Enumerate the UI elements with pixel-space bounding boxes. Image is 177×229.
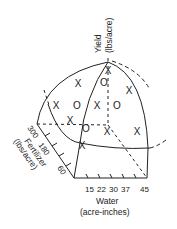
- o-marker: O: [100, 77, 108, 88]
- x-marker: X: [79, 140, 86, 151]
- fertilizer-tick: [52, 143, 57, 146]
- o-marker: O: [113, 100, 121, 111]
- x-marker: X: [67, 115, 74, 126]
- yield-axis-unit: (lbs/acre): [104, 17, 114, 53]
- water-tick-15: 15: [85, 185, 94, 194]
- water-tick-45: 45: [140, 185, 149, 194]
- x-marker: X: [134, 126, 141, 137]
- x-marker: X: [53, 100, 60, 111]
- right-dashed-curve: [150, 140, 166, 148]
- water-tick-22: 22: [97, 185, 106, 194]
- water-axis-unit: (acre-inches): [80, 207, 130, 217]
- x-marker: X: [94, 100, 101, 111]
- water-tick: [98, 174, 100, 178]
- water-tick-37: 37: [121, 185, 130, 194]
- water-tick: [110, 174, 112, 178]
- water-hidden-dashed: [108, 125, 147, 178]
- fertilizer-tick: [59, 153, 64, 156]
- water-tick-30: 30: [109, 185, 118, 194]
- fertilizer-tick: [66, 163, 71, 166]
- data-markers: XOXXXOXOXOXXX: [53, 65, 141, 151]
- x-marker: X: [105, 65, 112, 76]
- fertilizer-tick: [45, 133, 50, 136]
- yield-response-surface-diagram: Yield (lbs/acre) 300 180 60 Fertilizer (…: [0, 0, 177, 229]
- front-right-edge: [147, 148, 148, 178]
- o-marker: O: [82, 123, 90, 134]
- x-marker: X: [75, 78, 82, 89]
- x-marker: X: [104, 126, 111, 137]
- water-tick: [86, 174, 88, 178]
- yield-axis-label: Yield: [93, 34, 103, 53]
- water-tick: [122, 174, 124, 178]
- x-marker: X: [126, 85, 133, 96]
- water-axis-label: Water: [96, 196, 119, 206]
- o-marker: O: [73, 100, 81, 111]
- water-tick: [134, 174, 136, 178]
